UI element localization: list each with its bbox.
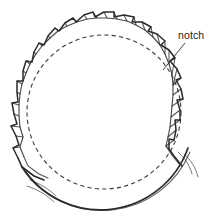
figure-root: notch (0, 0, 219, 221)
notched-band-diagram: notch (0, 0, 219, 221)
notch-label: notch (178, 29, 204, 41)
